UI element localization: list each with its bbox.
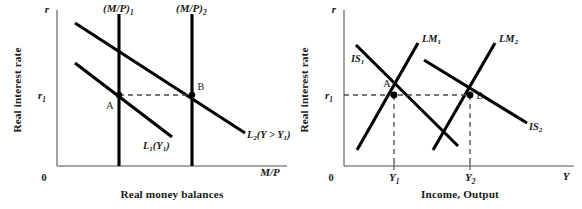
right-x-axis-title: Income, Output: [421, 188, 499, 200]
economics-figure: r r1 0 M/P Real interest rate Real money…: [0, 0, 582, 209]
right-is-curve-label-2: IS2: [528, 121, 543, 134]
right-is-curve-label-1: IS1: [350, 53, 364, 66]
right-y-axis-title: Real interest rate: [298, 47, 310, 132]
right-panel-is-lm: r r1 0 Y Real interest rate Income, Outp…: [0, 0, 582, 209]
right-lm-curve-label-1: LM1: [421, 33, 441, 46]
right-lm-curve-label-2: LM2: [498, 33, 519, 46]
right-point-a-label: A: [383, 78, 391, 89]
right-is-curve-2: [424, 60, 527, 123]
right-origin-label: 0: [328, 172, 333, 183]
right-y-axis-symbol: r: [332, 3, 337, 15]
right-r1-label: r1: [325, 89, 333, 104]
right-x-tick-2-label: Y2: [465, 171, 476, 186]
right-x-tick-1-label: Y1: [389, 171, 399, 186]
right-point-a-dot: [391, 92, 398, 99]
right-point-b-dot: [467, 92, 474, 99]
right-point-b-label: B: [477, 90, 484, 101]
right-x-axis-end-symbol: Y: [563, 170, 571, 182]
